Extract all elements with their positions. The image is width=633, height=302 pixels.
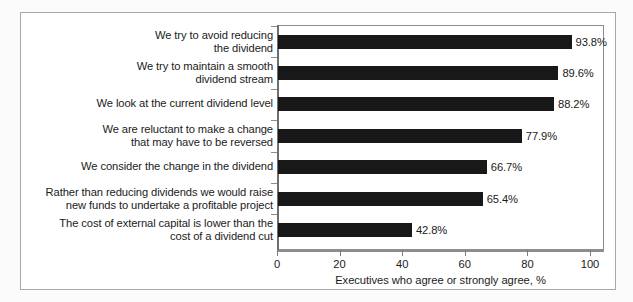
x-tick-label: 40: [396, 258, 408, 270]
x-tick-label: 0: [274, 258, 280, 270]
category-label: We try to maintain a smooth dividend str…: [0, 59, 273, 86]
horizontal-bar-chart: We try to avoid reducing the dividend93.…: [0, 0, 633, 302]
bar-value-label: 77.9%: [526, 130, 557, 142]
bar-value-label: 42.8%: [416, 224, 447, 236]
bar-value-label: 88.2%: [558, 98, 589, 110]
bar-row: We try to avoid reducing the dividend93.…: [0, 26, 633, 57]
category-label: We look at the current dividend level: [0, 98, 273, 112]
x-tick: [590, 250, 591, 256]
x-tick-label: 100: [581, 258, 600, 270]
x-tick: [277, 250, 278, 256]
x-tick-label: 80: [521, 258, 533, 270]
category-tick: [271, 152, 277, 153]
category-label: Rather than reducing dividends we would …: [0, 185, 273, 212]
category-tick: [271, 120, 277, 121]
x-tick: [340, 250, 341, 256]
bar: [278, 129, 522, 143]
bar: [278, 223, 412, 237]
x-tick: [527, 250, 528, 256]
bar-row: Rather than reducing dividends we would …: [0, 183, 633, 214]
bar-row: We consider the change in the dividend66…: [0, 152, 633, 183]
category-label: We are reluctant to make a change that m…: [0, 122, 273, 149]
bar: [278, 35, 572, 49]
bar: [278, 66, 558, 80]
bar: [278, 192, 483, 206]
category-label: We consider the change in the dividend: [0, 160, 273, 174]
category-tick: [271, 57, 277, 58]
bar-value-label: 65.4%: [487, 193, 518, 205]
category-tick: [271, 89, 277, 90]
bar: [278, 97, 554, 111]
category-label: The cost of external capital is lower th…: [0, 216, 273, 243]
x-axis-line: [277, 250, 604, 252]
bar-row: We look at the current dividend level88.…: [0, 89, 633, 120]
x-tick-label: 20: [333, 258, 345, 270]
bar: [278, 160, 487, 174]
category-tick: [271, 183, 277, 184]
bar-value-label: 89.6%: [562, 67, 593, 79]
x-tick-label: 60: [459, 258, 471, 270]
x-tick: [402, 250, 403, 256]
category-label: We try to avoid reducing the dividend: [0, 28, 273, 55]
x-tick: [465, 250, 466, 256]
bar-row: The cost of external capital is lower th…: [0, 214, 633, 245]
bar-value-label: 66.7%: [491, 161, 522, 173]
bar-value-label: 93.8%: [576, 36, 607, 48]
bar-row: We try to maintain a smooth dividend str…: [0, 57, 633, 88]
bar-row: We are reluctant to make a change that m…: [0, 120, 633, 151]
category-tick: [271, 26, 277, 27]
category-tick: [271, 214, 277, 215]
x-axis-title: Executives who agree or strongly agree, …: [277, 274, 604, 286]
